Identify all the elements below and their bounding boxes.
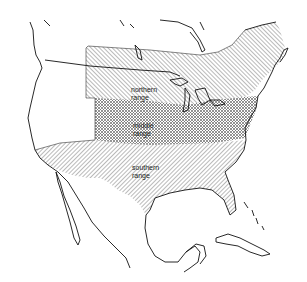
range-map (0, 0, 307, 282)
southern-range-label: southern range (132, 164, 159, 180)
northern-label-line1: northern (131, 86, 157, 94)
southern-label-line2: range (132, 172, 159, 180)
middle-range-label: middle range (133, 122, 154, 138)
northern-range-label: northern range (131, 86, 157, 102)
northern-label-line2: range (131, 94, 157, 102)
middle-label-line1: middle (133, 122, 154, 130)
southern-label-line1: southern (132, 164, 159, 172)
middle-label-line2: range (133, 130, 154, 138)
northern-range-region (86, 22, 285, 105)
